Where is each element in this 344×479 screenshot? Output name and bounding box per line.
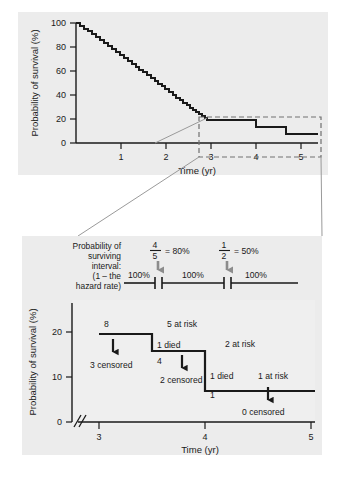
detail-xlabel: Time (yr) — [181, 444, 219, 455]
detail-annotation-censored-3: 3 censored — [90, 360, 133, 370]
hazard-event-2-value: = 50% — [234, 246, 259, 256]
hazard-label-line-1: Probability of — [73, 241, 122, 251]
overview-ytick-80: 80 — [56, 42, 66, 52]
detail-annotation-died-1-second: 1 died — [210, 371, 234, 381]
overview-ytick-0: 0 — [61, 138, 66, 148]
detail-annotation-at-risk-1-label: 1 — [210, 390, 215, 400]
detail-annotation-censored-2: 2 censored — [160, 375, 203, 385]
hazard-label-line-4: (1 – the — [93, 271, 122, 281]
detail-ytick-20: 20 — [52, 327, 62, 337]
hazard-event-2-denominator: 2 — [222, 251, 227, 261]
detail-annotation-censored-0: 0 censored — [242, 407, 285, 417]
hazard-event-1-value: = 80% — [165, 246, 190, 256]
overview-xtick-1: 1 — [118, 152, 123, 162]
hazard-label-line-3: interval: — [92, 261, 121, 271]
detail-annotation-at-risk-8: 8 — [104, 319, 109, 329]
overview-panel: 0 20 40 60 80 100 1 2 3 4 5 Time (yr) Pr… — [18, 12, 328, 176]
figure-canvas: 0 20 40 60 80 100 1 2 3 4 5 Time (yr) Pr… — [0, 0, 344, 479]
detail-ylabel: Probability of survival (%) — [27, 308, 38, 415]
survival-figure: 0 20 40 60 80 100 1 2 3 4 5 Time (yr) Pr… — [0, 0, 344, 479]
overview-ytick-60: 60 — [56, 66, 66, 76]
hazard-event-1-denominator: 5 — [153, 251, 158, 261]
interval-segment-3-label: 100% — [245, 270, 267, 280]
detail-xtick-5: 5 — [308, 432, 313, 442]
hazard-label-line-2: surviving — [88, 251, 121, 261]
overview-ytick-40: 40 — [56, 90, 66, 100]
hazard-event-2-numerator: 1 — [222, 240, 227, 250]
detail-annotation-died-1-first: 1 died — [157, 340, 181, 350]
overview-ytick-100: 100 — [51, 18, 66, 28]
detail-xtick-4: 4 — [202, 432, 207, 442]
detail-annotation-at-risk-2: 2 at risk — [225, 339, 256, 349]
detail-panel: Probability of surviving interval: (1 – … — [22, 236, 322, 455]
interval-segment-2-label: 100% — [182, 270, 204, 280]
overview-xtick-2: 2 — [163, 152, 168, 162]
overview-ylabel: Probability of survival (%) — [29, 29, 40, 136]
detail-ytick-10: 10 — [52, 372, 62, 382]
detail-xtick-3: 3 — [96, 432, 101, 442]
hazard-event-1-numerator: 4 — [153, 240, 158, 250]
detail-annotation-at-risk-4: 4 — [157, 356, 162, 366]
detail-ytick-0: 0 — [57, 417, 62, 427]
interval-segment-1-label: 100% — [128, 270, 150, 280]
detail-annotation-at-risk-1: 1 at risk — [258, 371, 289, 381]
detail-annotation-at-risk-5: 5 at risk — [167, 319, 198, 329]
overview-ytick-20: 20 — [56, 114, 66, 124]
hazard-label-line-5: hazard rate) — [76, 281, 121, 291]
